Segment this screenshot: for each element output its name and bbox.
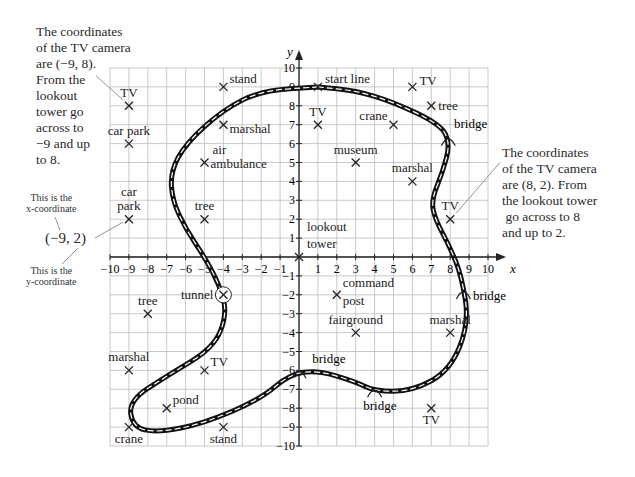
svg-text:1: 1 xyxy=(315,262,321,276)
svg-text:pond: pond xyxy=(173,392,200,407)
svg-text:bridge: bridge xyxy=(312,351,345,366)
right-note: The coordinatesof the TV cameraare (8, 2… xyxy=(502,145,597,241)
svg-text:TV: TV xyxy=(309,104,327,119)
svg-text:−10: −10 xyxy=(276,439,295,453)
svg-text:10: 10 xyxy=(283,61,295,75)
svg-text:x: x xyxy=(509,261,516,276)
svg-text:6: 6 xyxy=(409,262,415,276)
svg-text:−4: −4 xyxy=(217,262,230,276)
svg-text:1: 1 xyxy=(289,231,295,245)
coordinate-example: (−9, 2) xyxy=(45,230,86,247)
svg-text:tunnel: tunnel xyxy=(181,287,214,302)
left-note: The coordinatesof the TV cameraare (−9, … xyxy=(36,24,131,168)
svg-text:−8: −8 xyxy=(282,401,295,415)
svg-text:7: 7 xyxy=(289,118,295,132)
svg-text:9: 9 xyxy=(466,262,472,276)
svg-text:fairground: fairground xyxy=(328,312,383,327)
svg-text:marshal: marshal xyxy=(430,312,472,327)
svg-text:−9: −9 xyxy=(123,262,136,276)
svg-text:4: 4 xyxy=(289,174,295,188)
svg-text:tree: tree xyxy=(195,198,215,213)
svg-text:marshal: marshal xyxy=(108,349,150,364)
svg-text:park: park xyxy=(117,198,141,213)
svg-text:−7: −7 xyxy=(160,262,173,276)
svg-text:museum: museum xyxy=(334,142,378,157)
svg-text:TV: TV xyxy=(442,198,460,213)
svg-text:bridge: bridge xyxy=(454,116,487,131)
svg-text:crane: crane xyxy=(115,431,143,446)
svg-text:−2: −2 xyxy=(255,262,268,276)
svg-text:air: air xyxy=(213,142,227,157)
svg-text:−1: −1 xyxy=(282,269,295,283)
svg-text:−2: −2 xyxy=(282,288,295,302)
svg-text:−10: −10 xyxy=(101,262,120,276)
svg-text:10: 10 xyxy=(482,262,494,276)
svg-text:8: 8 xyxy=(289,99,295,113)
svg-text:stand: stand xyxy=(210,431,238,446)
svg-text:crane: crane xyxy=(359,108,387,123)
svg-text:2: 2 xyxy=(289,212,295,226)
svg-text:−7: −7 xyxy=(282,382,295,396)
svg-text:tree: tree xyxy=(138,293,158,308)
svg-text:tree: tree xyxy=(438,98,458,113)
svg-text:ambulance: ambulance xyxy=(211,156,268,171)
svg-text:−3: −3 xyxy=(282,307,295,321)
svg-text:−5: −5 xyxy=(282,345,295,359)
svg-text:6: 6 xyxy=(289,137,295,151)
svg-text:5: 5 xyxy=(289,156,295,170)
svg-text:3: 3 xyxy=(289,193,295,207)
svg-text:8: 8 xyxy=(447,262,453,276)
svg-text:−6: −6 xyxy=(179,262,192,276)
svg-text:car: car xyxy=(121,184,138,199)
svg-text:marshal: marshal xyxy=(392,160,434,175)
svg-text:−8: −8 xyxy=(141,262,154,276)
svg-text:2: 2 xyxy=(334,262,340,276)
svg-text:marshal: marshal xyxy=(229,121,271,136)
svg-text:command: command xyxy=(343,275,395,290)
svg-text:bridge: bridge xyxy=(363,398,396,413)
svg-text:tower: tower xyxy=(307,236,337,251)
x-coordinate-label: This is thex-coordinate xyxy=(26,192,77,214)
svg-text:TV: TV xyxy=(211,354,229,369)
svg-text:−3: −3 xyxy=(236,262,249,276)
svg-text:start line: start line xyxy=(325,71,370,86)
svg-text:TV: TV xyxy=(419,73,437,88)
svg-text:−4: −4 xyxy=(282,326,295,340)
svg-text:−9: −9 xyxy=(282,420,295,434)
y-coordinate-label: This is they-coordinate xyxy=(26,265,77,287)
svg-text:lookout: lookout xyxy=(307,219,347,234)
svg-text:TV: TV xyxy=(423,412,441,427)
svg-text:bridge: bridge xyxy=(473,288,506,303)
svg-text:stand: stand xyxy=(229,71,257,86)
svg-text:y: y xyxy=(285,44,293,59)
svg-text:post: post xyxy=(343,293,365,308)
svg-text:7: 7 xyxy=(428,262,434,276)
